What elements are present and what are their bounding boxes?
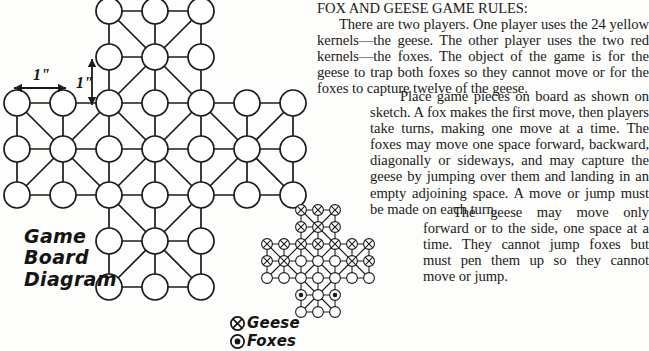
board-hole[interactable]: [96, 182, 122, 208]
board-hole[interactable]: [296, 273, 307, 284]
board-hole[interactable]: [188, 274, 214, 300]
board-hole[interactable]: [234, 90, 260, 116]
board-hole[interactable]: [96, 0, 122, 24]
board-hole[interactable]: [280, 136, 306, 162]
rules-paragraph-1: There are two players. One player uses t…: [317, 16, 649, 96]
board-hole[interactable]: [142, 274, 168, 300]
rules-paragraph-3: The geese may move only forward or to th…: [423, 204, 649, 284]
board-hole[interactable]: [142, 90, 168, 116]
board-hole[interactable]: [142, 136, 168, 162]
board-hole[interactable]: [280, 90, 306, 116]
board-hole[interactable]: [188, 228, 214, 254]
board-hole[interactable]: [234, 136, 260, 162]
dimension-label-vertical: 1": [76, 74, 93, 91]
board-hole[interactable]: [188, 182, 214, 208]
board-hole[interactable]: [4, 90, 30, 116]
rules-paragraph-2: Place game pieces on board as shown on s…: [370, 88, 649, 217]
rules-paragraph-1-text: There are two players. One player uses t…: [317, 16, 649, 96]
board-hole[interactable]: [142, 0, 168, 24]
board-hole[interactable]: [142, 228, 168, 254]
board-hole[interactable]: [296, 307, 307, 318]
board-hole[interactable]: [96, 90, 122, 116]
board-hole[interactable]: [262, 273, 273, 284]
rules-paragraph-3-text: The geese may move only forward or to th…: [423, 204, 649, 284]
board-hole[interactable]: [4, 182, 30, 208]
board-hole[interactable]: [188, 90, 214, 116]
board-hole[interactable]: [142, 182, 168, 208]
board-hole[interactable]: [188, 0, 214, 24]
board-hole[interactable]: [50, 136, 76, 162]
board-hole[interactable]: [279, 273, 290, 284]
board-hole[interactable]: [296, 256, 307, 267]
dimension-label-horizontal: 1": [33, 66, 50, 83]
board-hole[interactable]: [188, 44, 214, 70]
rules-text-block: FOX AND GEESE GAME RULES: There are two …: [313, 0, 649, 351]
board-hole[interactable]: [188, 136, 214, 162]
rules-heading: FOX AND GEESE GAME RULES:: [317, 1, 528, 16]
board-hole[interactable]: [50, 182, 76, 208]
circle-x-icon: [229, 315, 246, 332]
board-hole[interactable]: [96, 136, 122, 162]
rules-paragraph-2-text: Place game pieces on board as shown on s…: [370, 88, 649, 217]
page-root: 1"1" Game Board Diagram Geese Foxes FOX …: [0, 0, 649, 351]
fox-piece[interactable]: [299, 293, 304, 298]
board-hole[interactable]: [50, 90, 76, 116]
circle-dot-icon: [229, 333, 246, 350]
board-caption: Game Board Diagram: [24, 226, 117, 290]
board-hole[interactable]: [96, 44, 122, 70]
board-hole[interactable]: [142, 44, 168, 70]
board-hole[interactable]: [4, 136, 30, 162]
